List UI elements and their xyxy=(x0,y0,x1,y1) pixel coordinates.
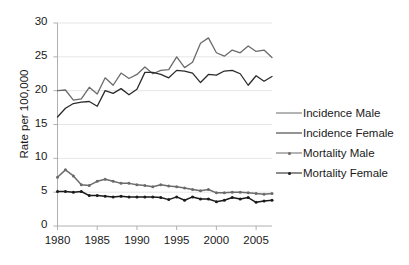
series-marker-2 xyxy=(80,183,83,186)
series-marker-3 xyxy=(183,199,186,202)
series-marker-2 xyxy=(191,188,194,191)
series-marker-3 xyxy=(151,195,154,198)
series-marker-3 xyxy=(247,196,250,199)
series-marker-3 xyxy=(88,194,91,197)
series-marker-3 xyxy=(255,201,258,204)
x-tick-label: 2000 xyxy=(196,234,236,246)
series-marker-3 xyxy=(80,190,83,193)
series-marker-3 xyxy=(120,195,123,198)
series-marker-2 xyxy=(239,191,242,194)
y-tick-label: 5 xyxy=(22,184,48,196)
series-marker-2 xyxy=(88,184,91,187)
x-tick-label: 2005 xyxy=(236,234,276,246)
series-marker-2 xyxy=(128,182,131,185)
series-marker-2 xyxy=(159,183,162,186)
series-marker-3 xyxy=(271,199,274,202)
series-marker-3 xyxy=(159,196,162,199)
line-chart-figure: Rate per 100,000 051015202530 1980198519… xyxy=(0,0,409,265)
series-marker-2 xyxy=(104,178,107,181)
series-marker-2 xyxy=(64,168,67,171)
series-marker-2 xyxy=(112,180,115,183)
legend-line-swatch-icon xyxy=(276,147,302,159)
x-tick-label: 1980 xyxy=(38,234,78,246)
legend-item-label: Incidence Male xyxy=(302,107,380,119)
series-marker-3 xyxy=(143,195,146,198)
series-marker-2 xyxy=(56,176,59,179)
series-marker-3 xyxy=(128,195,131,198)
series-marker-3 xyxy=(239,197,242,200)
series-marker-3 xyxy=(64,190,67,193)
series-marker-3 xyxy=(72,191,75,194)
series-marker-3 xyxy=(56,190,59,193)
series-marker-2 xyxy=(72,174,75,177)
series-marker-2 xyxy=(120,182,123,185)
series-marker-3 xyxy=(263,199,266,202)
series-marker-2 xyxy=(151,185,154,188)
series-marker-3 xyxy=(199,197,202,200)
legend-item-label: Mortality Male xyxy=(302,147,375,159)
x-tick-label: 1990 xyxy=(117,234,157,246)
series-marker-3 xyxy=(207,197,210,200)
series-marker-3 xyxy=(215,200,218,203)
series-line-1 xyxy=(58,70,273,117)
x-tick-label: 1985 xyxy=(77,234,117,246)
legend-item-0[interactable]: Incidence Male xyxy=(276,104,394,122)
legend-item-label: Mortality Female xyxy=(302,167,388,179)
series-marker-2 xyxy=(96,180,99,183)
series-marker-2 xyxy=(215,191,218,194)
series-marker-2 xyxy=(143,184,146,187)
series-marker-3 xyxy=(231,196,234,199)
series-marker-2 xyxy=(271,192,274,195)
legend-item-3[interactable]: Mortality Female xyxy=(276,164,394,182)
legend-item-label: Incidence Female xyxy=(302,127,394,139)
series-marker-3 xyxy=(223,199,226,202)
series-marker-3 xyxy=(135,195,138,198)
y-tick-label: 10 xyxy=(22,150,48,162)
y-tick-label: 30 xyxy=(22,15,48,27)
x-tick-label: 1995 xyxy=(157,234,197,246)
series-marker-2 xyxy=(207,188,210,191)
series-marker-2 xyxy=(223,191,226,194)
series-marker-2 xyxy=(255,192,258,195)
series-marker-3 xyxy=(167,198,170,201)
chart-legend: Incidence MaleIncidence FemaleMortality … xyxy=(276,104,394,184)
series-marker-3 xyxy=(96,194,99,197)
series-marker-2 xyxy=(247,191,250,194)
y-tick-label: 20 xyxy=(22,83,48,95)
series-marker-2 xyxy=(231,191,234,194)
legend-item-1[interactable]: Incidence Female xyxy=(276,124,394,142)
series-marker-2 xyxy=(175,185,178,188)
series-marker-2 xyxy=(167,185,170,188)
series-marker-2 xyxy=(199,189,202,192)
series-marker-2 xyxy=(135,183,138,186)
series-marker-3 xyxy=(112,195,115,198)
y-tick-label: 15 xyxy=(22,117,48,129)
legend-line-swatch-icon xyxy=(276,107,302,119)
series-marker-2 xyxy=(263,193,266,196)
legend-line-swatch-icon xyxy=(276,127,302,139)
legend-item-2[interactable]: Mortality Male xyxy=(276,144,394,162)
series-line-2 xyxy=(58,170,273,194)
y-tick-label: 25 xyxy=(22,49,48,61)
y-tick-label: 0 xyxy=(22,218,48,230)
legend-line-swatch-icon xyxy=(276,167,302,179)
series-marker-3 xyxy=(175,195,178,198)
series-marker-2 xyxy=(183,187,186,190)
series-marker-3 xyxy=(104,195,107,198)
series-marker-3 xyxy=(191,195,194,198)
